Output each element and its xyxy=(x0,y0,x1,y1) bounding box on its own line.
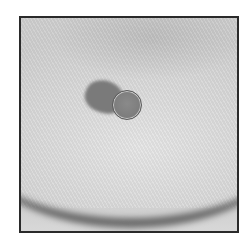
photo-frame xyxy=(19,16,239,233)
round-lesion xyxy=(112,90,142,120)
